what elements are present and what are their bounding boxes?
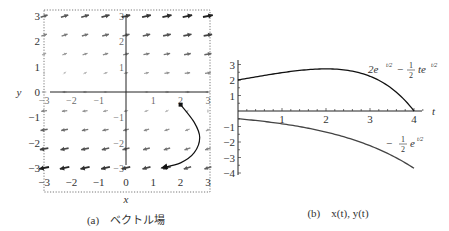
vector-field-panel: −3−2−10123 3210−1−2−3 −3−2−1123 321−1−2−…	[16, 10, 213, 227]
t-tick-label: 3	[367, 113, 373, 125]
trajectory-start-marker	[179, 103, 183, 107]
x-tick-label: 3	[205, 176, 211, 188]
svg-text:2: 2	[409, 71, 413, 80]
inner-x-tick-label: 3	[205, 95, 210, 106]
caption-b: (b) x(t), y(t)	[307, 207, 368, 220]
svg-text:−: −	[386, 137, 392, 149]
inner-x-tick-label: −2	[66, 95, 77, 106]
x-tick-labels: −3−2−10123	[38, 176, 211, 188]
y-tick-label: −1	[223, 121, 235, 133]
inner-y-tick-label: 1	[119, 62, 124, 73]
figure: −3−2−10123 3210−1−2−3 −3−2−1123 321−1−2−…	[0, 0, 449, 231]
y-axis-label: y	[16, 86, 22, 98]
inner-y-tick-label: 2	[119, 36, 124, 47]
svg-text:t/2: t/2	[417, 136, 423, 142]
t-tick-label: 2	[323, 113, 329, 125]
svg-text:−: −	[397, 63, 403, 75]
t-tick-labels: 1234	[279, 113, 417, 125]
time-series-panel: 1234 321−1−2−3−4 t 2e t/2 − 1 2 te t/2 −…	[223, 59, 437, 221]
y-tick-label: 3	[230, 59, 236, 71]
inner-y-tick-label: −2	[113, 138, 124, 149]
series-x-label: 2e t/2 − 1 2 te t/2	[368, 61, 437, 80]
y-tick-label: −1	[28, 111, 40, 123]
series-x-curve	[238, 69, 414, 111]
y-tick-label: −3	[28, 162, 40, 174]
y-tick-label: 2	[35, 35, 41, 47]
x-tick-label: −2	[66, 176, 78, 188]
y-tick-labels: 3210−1−2−3	[28, 10, 40, 174]
svg-text:t/2: t/2	[386, 62, 392, 68]
x-tick-label: 0	[123, 176, 129, 188]
caption-a: (a) ベクトル場	[87, 214, 165, 227]
svg-text:e: e	[410, 137, 415, 149]
svg-text:t/2: t/2	[431, 62, 437, 68]
x-tick-label: −3	[38, 176, 50, 188]
y-tick-label: 3	[35, 10, 41, 22]
x-tick-label: −1	[93, 176, 105, 188]
y-tick-label: −2	[28, 137, 40, 149]
inner-y-tick-label: −3	[113, 163, 124, 174]
x-tick-label: 2	[178, 176, 184, 188]
svg-text:1: 1	[401, 135, 405, 144]
series-y-label: − 1 2 e t/2	[386, 135, 423, 154]
inner-x-tick-label: 1	[151, 95, 156, 106]
y-tick-label: 2	[230, 74, 236, 86]
inner-y-tick-label: −1	[113, 112, 124, 123]
svg-text:2: 2	[401, 145, 405, 154]
y-tick-label: −2	[223, 136, 235, 148]
inner-x-tick-labels: −3−2−1123	[39, 95, 211, 106]
y-tick-label: 1	[35, 61, 41, 73]
inner-y-tick-label: 3	[119, 11, 124, 22]
y-tick-labels-b: 321−1−2−3−4	[223, 59, 235, 180]
inner-x-tick-label: −1	[93, 95, 104, 106]
trajectory-curve	[161, 105, 199, 168]
x-axis-label: x	[123, 193, 129, 205]
inner-x-tick-label: −3	[39, 95, 50, 106]
t-tick-label: 4	[411, 113, 417, 125]
y-tick-label: −3	[223, 152, 235, 164]
svg-text:1: 1	[409, 61, 413, 70]
y-tick-label: −4	[223, 167, 235, 179]
svg-text:te: te	[418, 63, 426, 75]
t-axis-label: t	[432, 105, 436, 117]
x-tick-label: 1	[151, 176, 157, 188]
y-tick-label: 1	[230, 90, 236, 102]
svg-text:2e: 2e	[368, 63, 379, 75]
